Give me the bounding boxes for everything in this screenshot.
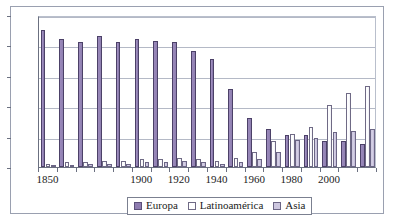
bar-latinoamerica bbox=[65, 162, 70, 167]
bar-group bbox=[322, 17, 337, 167]
x-axis-label: 1920 bbox=[168, 174, 190, 185]
x-axis-tick bbox=[132, 168, 133, 172]
bar-latinoamerica bbox=[46, 164, 51, 167]
bar-europa bbox=[322, 141, 327, 167]
bar-latinoamerica bbox=[121, 161, 126, 167]
legend-swatch-icon bbox=[273, 202, 281, 210]
bar-europa bbox=[153, 41, 158, 167]
bar-latinoamerica bbox=[196, 159, 201, 167]
x-axis-tick bbox=[376, 168, 377, 172]
bar-asia bbox=[145, 162, 150, 167]
plot-area bbox=[38, 16, 376, 168]
legend-label: Asia bbox=[285, 200, 305, 211]
bar-europa bbox=[78, 42, 83, 167]
bar-latinoamerica bbox=[215, 161, 220, 167]
bar-group bbox=[191, 17, 206, 167]
x-axis-tick bbox=[38, 168, 39, 172]
bar-europa bbox=[210, 59, 215, 167]
y-axis-tick bbox=[7, 77, 11, 78]
bar-group bbox=[59, 17, 74, 167]
bar-group bbox=[228, 17, 243, 167]
x-axis-label: 1980 bbox=[281, 174, 303, 185]
x-axis-tick bbox=[301, 168, 302, 172]
bar-latinoamerica bbox=[309, 127, 314, 167]
bar-asia bbox=[351, 131, 356, 167]
x-axis-tick bbox=[282, 168, 283, 172]
x-axis-tick bbox=[207, 168, 208, 172]
bar-asia bbox=[257, 159, 262, 167]
chart-legend: EuropaLatinoaméricaAsia bbox=[127, 197, 312, 215]
bar-europa bbox=[41, 30, 46, 167]
bar-europa bbox=[191, 51, 196, 167]
bar-group bbox=[360, 17, 375, 167]
bar-asia bbox=[295, 140, 300, 167]
legend-item-asia[interactable]: Asia bbox=[273, 200, 305, 211]
bar-group bbox=[304, 17, 319, 167]
bar-europa bbox=[97, 36, 102, 167]
bar-europa bbox=[135, 39, 140, 167]
bar-latinoamerica bbox=[83, 162, 88, 167]
x-axis-tick bbox=[76, 168, 77, 172]
bar-asia bbox=[70, 165, 75, 167]
bar-asia bbox=[333, 132, 338, 167]
x-axis-tick bbox=[245, 168, 246, 172]
x-axis-tick bbox=[169, 168, 170, 172]
bar-group bbox=[41, 17, 56, 167]
bar-asia bbox=[107, 164, 112, 167]
legend-swatch-icon bbox=[134, 202, 142, 210]
bar-group bbox=[285, 17, 300, 167]
bar-asia bbox=[220, 164, 225, 167]
x-axis-label: 1850 bbox=[36, 174, 58, 185]
bar-asia bbox=[201, 162, 206, 167]
x-axis-label: 1940 bbox=[205, 174, 227, 185]
bar-latinoamerica bbox=[327, 105, 332, 167]
bar-asia bbox=[182, 161, 187, 167]
bar-asia bbox=[51, 165, 56, 167]
bar-europa bbox=[247, 118, 252, 167]
y-axis-tick bbox=[7, 138, 11, 139]
bar-latinoamerica bbox=[252, 152, 257, 167]
bar-europa bbox=[116, 42, 121, 167]
legend-item-latino[interactable]: Latinoamérica bbox=[188, 200, 264, 211]
bar-group bbox=[172, 17, 187, 167]
bar-latinoamerica bbox=[140, 159, 145, 167]
x-axis-tick bbox=[263, 168, 264, 172]
legend-label: Europa bbox=[146, 200, 178, 211]
bar-group bbox=[78, 17, 93, 167]
bar-europa bbox=[360, 144, 365, 167]
bar-latinoamerica bbox=[346, 93, 351, 167]
bar-latinoamerica bbox=[158, 159, 163, 167]
legend-item-europa[interactable]: Europa bbox=[134, 200, 178, 211]
bar-group bbox=[135, 17, 150, 167]
bar-group bbox=[97, 17, 112, 167]
bar-group bbox=[247, 17, 262, 167]
x-axis-tick bbox=[57, 168, 58, 172]
bar-asia bbox=[370, 129, 375, 167]
legend-swatch-icon bbox=[188, 202, 196, 210]
bar-group bbox=[341, 17, 356, 167]
bar-asia bbox=[239, 162, 244, 167]
x-axis-tick bbox=[188, 168, 189, 172]
y-axis-tick bbox=[7, 16, 11, 17]
bar-latinoamerica bbox=[271, 141, 276, 167]
bar-latinoamerica bbox=[102, 161, 107, 167]
bar-group bbox=[266, 17, 281, 167]
bar-europa bbox=[341, 141, 346, 167]
bar-latinoamerica bbox=[234, 158, 239, 167]
plot-area-wrapper bbox=[38, 16, 376, 168]
x-axis-tick bbox=[113, 168, 114, 172]
x-axis-tick bbox=[320, 168, 321, 172]
bar-latinoamerica bbox=[177, 158, 182, 167]
x-axis-tick bbox=[357, 168, 358, 172]
x-axis-label: 1960 bbox=[243, 174, 265, 185]
bar-group bbox=[210, 17, 225, 167]
x-axis-tick bbox=[338, 168, 339, 172]
bar-europa bbox=[172, 42, 177, 167]
legend-label: Latinoamérica bbox=[200, 200, 264, 211]
bar-group bbox=[116, 17, 131, 167]
bar-asia bbox=[164, 162, 169, 167]
chart-frame: 020406080100 185019001920194019601980200… bbox=[10, 6, 384, 214]
bar-europa bbox=[266, 129, 271, 167]
bar-asia bbox=[276, 152, 281, 167]
bar-europa bbox=[59, 39, 64, 167]
